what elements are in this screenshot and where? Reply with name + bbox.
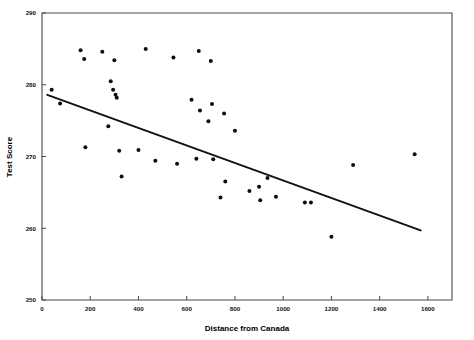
- data-point: [112, 58, 116, 62]
- data-point: [209, 59, 213, 63]
- data-point: [175, 162, 179, 166]
- data-point: [82, 57, 86, 61]
- data-point: [413, 152, 417, 156]
- data-point: [111, 88, 115, 92]
- y-axis-ticks: [42, 13, 46, 300]
- x-axis-title: Distance from Canada: [205, 324, 290, 333]
- y-axis-tick-labels: 250260270280290: [26, 9, 37, 303]
- data-point: [309, 200, 313, 204]
- data-point: [136, 148, 140, 152]
- data-point: [247, 189, 251, 193]
- x-tick-label: 400: [133, 305, 144, 312]
- data-point: [257, 185, 261, 189]
- scatter-plot-figure: 02004006008001000120014001600 2502602702…: [0, 0, 474, 340]
- data-point: [266, 176, 270, 180]
- data-point: [223, 180, 227, 184]
- data-point: [218, 195, 222, 199]
- y-tick-label: 290: [26, 9, 37, 16]
- data-points: [50, 47, 417, 239]
- x-tick-label: 800: [230, 305, 241, 312]
- data-point: [83, 145, 87, 149]
- x-tick-label: 1200: [325, 305, 339, 312]
- data-point: [109, 79, 113, 83]
- data-point: [198, 109, 202, 113]
- data-point: [303, 200, 307, 204]
- y-tick-label: 270: [26, 153, 37, 160]
- x-axis-tick-labels: 02004006008001000120014001600: [40, 305, 435, 312]
- data-point: [50, 88, 54, 92]
- x-tick-label: 1400: [373, 305, 387, 312]
- data-point: [194, 157, 198, 161]
- data-point: [58, 101, 62, 105]
- x-tick-label: 1600: [421, 305, 435, 312]
- y-tick-label: 280: [26, 81, 37, 88]
- trend-line: [47, 95, 420, 231]
- data-point: [115, 96, 119, 100]
- data-point: [100, 50, 104, 54]
- data-point: [274, 195, 278, 199]
- data-point: [106, 124, 110, 128]
- plot-frame: [42, 13, 452, 300]
- data-point: [233, 129, 237, 133]
- data-point: [222, 111, 226, 115]
- data-point: [153, 159, 157, 163]
- data-point: [329, 235, 333, 239]
- y-axis-title: Test Score: [5, 136, 14, 177]
- data-point: [79, 48, 83, 52]
- data-point: [117, 149, 121, 153]
- x-tick-label: 600: [182, 305, 193, 312]
- x-tick-label: 0: [40, 305, 44, 312]
- x-axis-ticks: [42, 296, 428, 300]
- y-tick-label: 250: [26, 296, 37, 303]
- data-point: [120, 175, 124, 179]
- data-point: [197, 49, 201, 53]
- data-point: [258, 198, 262, 202]
- data-point: [171, 55, 175, 59]
- data-point: [190, 98, 194, 102]
- data-point: [144, 47, 148, 51]
- plot-canvas: 02004006008001000120014001600 2502602702…: [0, 0, 474, 340]
- y-tick-label: 260: [26, 225, 37, 232]
- data-point: [211, 157, 215, 161]
- regression-line: [47, 95, 420, 231]
- data-point: [206, 119, 210, 123]
- x-tick-label: 1000: [276, 305, 290, 312]
- x-tick-label: 200: [85, 305, 96, 312]
- data-point: [210, 102, 214, 106]
- data-point: [351, 163, 355, 167]
